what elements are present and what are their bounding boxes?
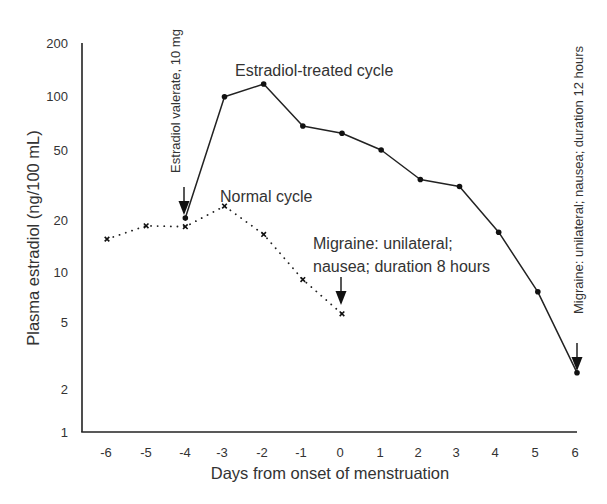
dose-annotation: Estradiol valerate, 10 mg	[168, 29, 183, 173]
y-tick-label: 20	[54, 213, 68, 228]
x-tick-label: 6	[571, 445, 578, 460]
x-marker-icon	[301, 277, 306, 282]
x-tick-label: -5	[140, 445, 152, 460]
y-tick-label: 200	[46, 36, 68, 51]
y-tick-label: 2	[61, 382, 68, 397]
migraine-8h-arrow-icon	[336, 277, 347, 305]
estradiol-chart: 200100502010521 -6-5-4-3-2-10123456 Days…	[0, 0, 607, 504]
x-marker-icon	[261, 232, 266, 237]
series-normal-cycle	[105, 204, 345, 316]
x-tick-label: 4	[491, 445, 498, 460]
dot-marker-icon	[418, 177, 424, 183]
dot-marker-icon	[457, 184, 463, 190]
migraine-12h-arrow-icon	[572, 343, 583, 371]
y-tick-label: 50	[54, 143, 68, 158]
migraine-8h-annotation-line1: Migraine: unilateral;	[313, 235, 453, 252]
y-axis-title: Plasma estradiol (ng/100 mL)	[24, 130, 42, 346]
dot-marker-icon	[496, 229, 502, 235]
x-tick-label: -6	[100, 445, 112, 460]
x-tick-label: 0	[336, 445, 343, 460]
x-tick-label: 5	[531, 445, 538, 460]
x-tick-label: -1	[295, 445, 307, 460]
dot-marker-icon	[222, 94, 228, 100]
migraine-12h-annotation: Migraine: unilateral; nausea; duration 1…	[571, 45, 586, 314]
x-tick-label: 3	[452, 445, 459, 460]
x-tick-labels: -6-5-4-3-2-10123456	[100, 445, 578, 460]
dot-marker-icon	[300, 123, 306, 129]
y-tick-label: 10	[54, 265, 68, 280]
dot-marker-icon	[378, 147, 384, 153]
normal-cycle-line	[107, 206, 342, 314]
x-marker-icon	[105, 237, 110, 242]
x-marker-icon	[340, 312, 345, 317]
y-tick-labels: 200100502010521	[46, 36, 68, 440]
dot-marker-icon	[183, 215, 189, 221]
dot-marker-icon	[261, 81, 267, 87]
x-tick-label: -3	[216, 445, 228, 460]
treated-cycle-line	[185, 84, 577, 373]
x-tick-label: -2	[256, 445, 268, 460]
x-axis-title: Days from onset of menstruation	[211, 464, 449, 482]
treated-series-label: Estradiol-treated cycle	[235, 62, 393, 79]
y-tick-label: 5	[61, 315, 68, 330]
y-tick-label: 1	[61, 425, 68, 440]
y-tick-label: 100	[46, 89, 68, 104]
dot-marker-icon	[339, 130, 345, 136]
series-estradiol-treated	[183, 81, 580, 375]
migraine-8h-annotation-line2: nausea; duration 8 hours	[313, 258, 490, 275]
x-tick-label: 1	[376, 445, 383, 460]
normal-series-label: Normal cycle	[220, 188, 313, 205]
x-tick-label: -4	[179, 445, 191, 460]
dot-marker-icon	[535, 289, 541, 295]
x-tick-label: 2	[414, 445, 421, 460]
